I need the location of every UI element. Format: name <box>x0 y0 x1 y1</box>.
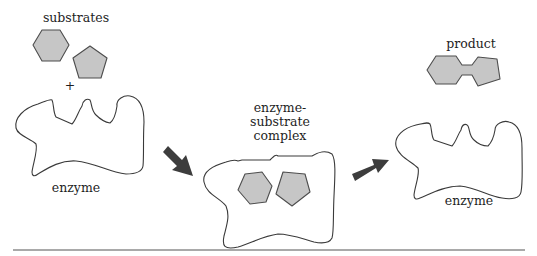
complex-label-line1: enzyme- <box>254 100 307 115</box>
substrates-label: substrates <box>43 10 109 25</box>
product-label: product <box>446 36 496 51</box>
stage-substrates-and-enzyme: substrates + enzyme <box>16 10 144 195</box>
arrow-down-right-icon <box>163 146 193 176</box>
arrow-up-right-icon <box>352 159 389 181</box>
enzyme-label-2: enzyme <box>445 193 493 208</box>
product-molecule-icon <box>427 56 500 86</box>
enzyme-shape-released <box>396 121 523 199</box>
enzyme-shape-free <box>16 96 144 176</box>
enzyme-reaction-diagram: substrates + enzyme enzyme- substrate co… <box>0 0 537 256</box>
complex-label-line2: substrate <box>250 114 310 129</box>
hexagon-substrate-icon <box>33 30 69 61</box>
pentagon-substrate-icon <box>73 46 107 78</box>
stage-enzyme-substrate-complex: enzyme- substrate complex <box>204 100 335 248</box>
enzyme-shape-complex <box>204 152 335 248</box>
enzyme-label-1: enzyme <box>52 180 100 195</box>
plus-sign: + <box>65 78 75 93</box>
stage-product-and-enzyme: product enzyme <box>396 36 523 208</box>
complex-label-line3: complex <box>254 128 307 143</box>
